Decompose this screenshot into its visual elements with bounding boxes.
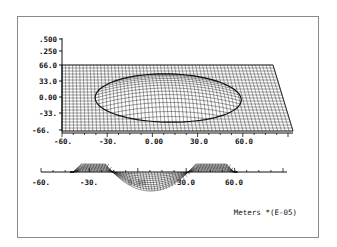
x-tick-label: -60.: [32, 178, 50, 187]
z-tick-label: .250: [39, 47, 58, 56]
x-tick-label: 30.0: [190, 137, 209, 146]
x-tick-label: -30.: [99, 137, 117, 146]
surface-wireframe: [62, 65, 293, 131]
x-tick-label: 0.00: [145, 137, 164, 146]
x-tick-label: -60.: [54, 137, 72, 146]
x-tick-label: -30.: [80, 178, 98, 187]
y-tick-label: -66.: [32, 126, 50, 135]
x-tick-label: 0.00: [128, 178, 147, 187]
y-tick-label: 0.00: [39, 93, 58, 102]
x-tick-label: 60.0: [235, 137, 254, 146]
units-label: Meters *(E-05): [234, 208, 297, 217]
x-tick-label: 30.0: [177, 178, 196, 187]
z-tick-label: .500: [39, 35, 58, 44]
y-tick-label: 66.0: [39, 61, 58, 70]
surface-plot-figure: .500 .250 66.0 33.0 0.00 -33. -66. -60. …: [0, 0, 337, 247]
x-axis-top: [62, 133, 293, 137]
y-tick-label: 33.0: [39, 77, 58, 86]
z-axis: [59, 38, 62, 133]
y-tick-label: -33.: [39, 109, 57, 118]
x-tick-label: 60.0: [225, 178, 244, 187]
